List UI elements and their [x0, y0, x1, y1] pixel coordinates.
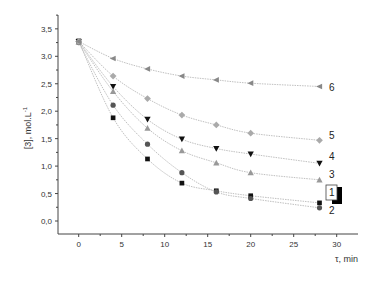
diamond-marker [316, 137, 323, 144]
triangle-down-marker [248, 151, 254, 157]
series-labels: 123456 [326, 82, 342, 216]
circle-marker [317, 205, 322, 210]
circle-marker [111, 103, 116, 108]
x-tick-label: 0 [76, 240, 81, 249]
circle-marker [145, 142, 150, 147]
y-tick-label: 2,0 [41, 107, 53, 116]
y-axis-title: [3], mol.L-1 [22, 106, 33, 149]
y-tick-label: 1,0 [41, 162, 53, 171]
triangle-up-marker [213, 160, 219, 166]
y-axis-title-superscript: -1 [22, 106, 28, 112]
y-axis-title-text: [3], mol.L [23, 112, 33, 149]
y-tick-label: 0,0 [41, 217, 53, 226]
triangle-down-marker [213, 146, 219, 152]
series-curve-2 [79, 43, 320, 208]
triangle-left-marker [213, 77, 219, 83]
triangle-down-marker [179, 137, 185, 143]
y-tick-label: 2,5 [41, 80, 53, 89]
square-marker [145, 157, 150, 162]
y-tick-label: 1,5 [41, 135, 53, 144]
x-tick-label: 30 [332, 240, 341, 249]
triangle-left-marker [144, 66, 150, 72]
triangle-down-marker [144, 117, 150, 123]
circle-marker [248, 196, 253, 201]
circle-marker [214, 189, 219, 194]
axes: 0510152025300,00,51,01,52,02,53,03,5 [41, 15, 358, 249]
square-marker [317, 201, 322, 206]
triangle-up-marker [248, 170, 254, 176]
series-label-6: 6 [329, 82, 335, 93]
square-marker [111, 115, 116, 120]
x-tick-label: 5 [119, 240, 124, 249]
x-axis-title: τ, min [335, 254, 358, 264]
series-label-4: 4 [329, 151, 335, 162]
triangle-left-marker [316, 84, 322, 90]
diamond-marker [247, 130, 254, 137]
diamond-marker [179, 112, 186, 119]
triangle-left-marker [179, 73, 185, 79]
square-marker [180, 181, 185, 186]
series-label-3: 3 [329, 169, 335, 180]
series-label-2: 2 [329, 205, 335, 216]
series-curve-6 [79, 41, 320, 86]
y-tick-label: 3,5 [41, 25, 53, 34]
y-tick-label: 3,0 [41, 52, 53, 61]
triangle-up-marker [179, 148, 185, 154]
series-curve-1 [79, 41, 320, 203]
x-tick-label: 20 [246, 240, 255, 249]
data-markers [75, 38, 323, 210]
series-label-5: 5 [329, 130, 335, 141]
triangle-up-marker [144, 125, 150, 131]
triangle-left-marker [110, 56, 116, 62]
diamond-marker [144, 95, 151, 102]
diamond-marker [213, 122, 220, 129]
kinetics-chart: 0510152025300,00,51,01,52,02,53,03,5 123… [0, 0, 378, 284]
fit-curves [79, 41, 320, 208]
series-label-1: 1 [329, 187, 335, 198]
series-curve-3 [79, 42, 320, 180]
triangle-down-marker [110, 84, 116, 90]
triangle-left-marker [247, 80, 253, 86]
triangle-down-marker [316, 161, 322, 167]
x-tick-label: 15 [203, 240, 212, 249]
x-tick-label: 10 [160, 240, 169, 249]
circle-marker [179, 170, 184, 175]
x-tick-label: 25 [289, 240, 298, 249]
y-tick-label: 0,5 [41, 190, 53, 199]
